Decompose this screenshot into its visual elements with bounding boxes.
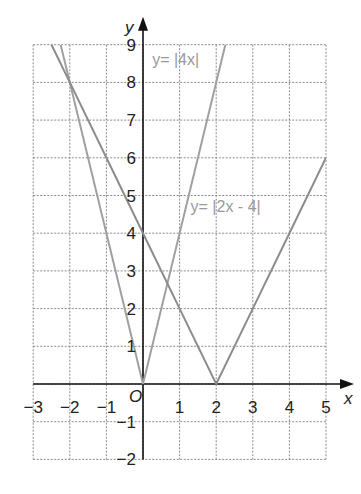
x-tick-label: 3 [248, 398, 257, 417]
x-tick-label: 5 [321, 398, 330, 417]
x-tick-label: −2 [60, 398, 79, 417]
y-axis-label: y [124, 18, 135, 37]
origin-label: O [129, 387, 142, 406]
x-tick-label: −1 [97, 398, 116, 417]
curve-abs-2x-minus-4 [52, 45, 327, 384]
equation-label-abs-2x-minus-4: y= |2x - 4| [191, 198, 261, 215]
y-tick-label: 4 [127, 224, 136, 243]
y-tick-label: 6 [127, 149, 136, 168]
y-tick-label: 7 [127, 111, 136, 130]
y-tick-label: 2 [127, 300, 136, 319]
y-tick-label: −2 [117, 450, 136, 469]
x-tick-label: 1 [175, 398, 184, 417]
y-tick-label: 3 [127, 262, 136, 281]
x-tick-label: −3 [24, 398, 43, 417]
y-tick-label: 8 [127, 73, 136, 92]
x-tick-label: 4 [285, 398, 294, 417]
y-tick-label: −1 [117, 413, 136, 432]
chart-canvas: −3−2−112345987654321−1−2xyOy= |4x|y= |2x… [0, 0, 361, 494]
x-tick-label: 2 [211, 398, 220, 417]
y-tick-label: 5 [127, 187, 136, 206]
y-axis-arrow-icon [138, 17, 148, 31]
y-tick-label: 9 [127, 36, 136, 55]
y-tick-label: 1 [127, 337, 136, 356]
x-axis-label: x [343, 389, 353, 408]
equation-label-abs-4x: y= |4x| [152, 51, 199, 68]
x-axis-arrow-icon [340, 379, 354, 389]
